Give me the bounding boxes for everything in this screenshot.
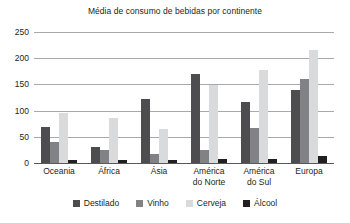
- bar-vinho: [200, 150, 209, 163]
- bar-vinho: [50, 142, 59, 163]
- bar-destilado: [41, 127, 50, 163]
- bar-cerveja: [159, 129, 168, 163]
- legend-item-alcool[interactable]: Álcool: [243, 199, 277, 208]
- bar-group: [84, 32, 134, 163]
- bar-alcool: [318, 156, 327, 163]
- chart-title: Média de consumo de bebidas por continen…: [0, 6, 350, 16]
- legend-label: Cerveja: [197, 199, 226, 208]
- bar-alcool: [218, 159, 227, 163]
- bar-destilado: [141, 99, 150, 163]
- x-category-label: Américado Norte: [184, 166, 234, 194]
- bar-group-bars: [84, 32, 134, 163]
- chart-container: Média de consumo de bebidas por continen…: [0, 0, 350, 223]
- bar-group: [34, 32, 84, 163]
- legend-swatch-icon: [186, 200, 193, 207]
- plot-area: [34, 32, 334, 163]
- legend-item-vinho[interactable]: Vinho: [136, 199, 169, 208]
- x-axis-category-labels: OceaniaÁfricaÁsiaAméricado NorteAméricad…: [34, 166, 334, 194]
- bar-group: [134, 32, 184, 163]
- bar-group: [184, 32, 234, 163]
- bar-group-bars: [234, 32, 284, 163]
- x-category-label: Europa: [284, 166, 334, 194]
- bar-alcool: [168, 160, 177, 163]
- bar-vinho: [100, 150, 109, 163]
- bar-alcool: [118, 160, 127, 163]
- bar-cerveja: [309, 50, 318, 163]
- legend-item-destilado[interactable]: Destilado: [73, 199, 119, 208]
- bar-group-bars: [184, 32, 234, 163]
- bar-destilado: [191, 74, 200, 163]
- bar-group-bars: [284, 32, 334, 163]
- y-tick-label: 250: [1, 28, 29, 37]
- y-tick-label: 200: [1, 54, 29, 63]
- y-tick-label: 150: [1, 80, 29, 89]
- x-category-label: África: [84, 166, 134, 194]
- x-category-label: Oceania: [34, 166, 84, 194]
- bar-groups: [34, 32, 334, 163]
- bar-vinho: [300, 79, 309, 163]
- legend-label: Vinho: [147, 199, 169, 208]
- y-tick-label: 0: [1, 159, 29, 168]
- y-tick-label: 50: [1, 133, 29, 142]
- x-category-label: Ásia: [134, 166, 184, 194]
- bar-vinho: [250, 128, 259, 163]
- bar-alcool: [68, 160, 77, 163]
- bar-group-bars: [34, 32, 84, 163]
- bar-alcool: [268, 159, 277, 163]
- bar-destilado: [291, 90, 300, 163]
- legend-item-cerveja[interactable]: Cerveja: [186, 199, 226, 208]
- bar-cerveja: [59, 113, 68, 163]
- bar-vinho: [150, 154, 159, 163]
- x-category-label: Américado Sul: [234, 166, 284, 194]
- bar-cerveja: [259, 70, 268, 163]
- bar-destilado: [91, 147, 100, 163]
- legend-label: Álcool: [254, 199, 277, 208]
- bar-group: [284, 32, 334, 163]
- axis-baseline: [34, 163, 334, 164]
- legend-swatch-icon: [73, 200, 80, 207]
- bar-group: [234, 32, 284, 163]
- bar-cerveja: [109, 118, 118, 163]
- y-tick-label: 100: [1, 107, 29, 116]
- chart-legend: DestiladoVinhoCervejaÁlcool: [0, 199, 350, 208]
- bar-cerveja: [209, 85, 218, 163]
- bar-group-bars: [134, 32, 184, 163]
- legend-swatch-icon: [136, 200, 143, 207]
- bar-destilado: [241, 102, 250, 163]
- legend-swatch-icon: [243, 200, 250, 207]
- legend-label: Destilado: [84, 199, 119, 208]
